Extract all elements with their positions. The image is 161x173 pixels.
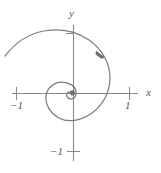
y-tick-label-neg1: −1 (50, 146, 63, 157)
spiral-figure: y x −1 1 −1 (0, 0, 161, 173)
center-point-dot (70, 90, 75, 95)
plot-canvas (0, 0, 161, 173)
y-axis-label: y (69, 8, 74, 19)
x-tick-label-pos1: 1 (125, 100, 131, 111)
x-axis-label: x (146, 87, 151, 98)
x-tick-label-neg1: −1 (10, 100, 23, 111)
